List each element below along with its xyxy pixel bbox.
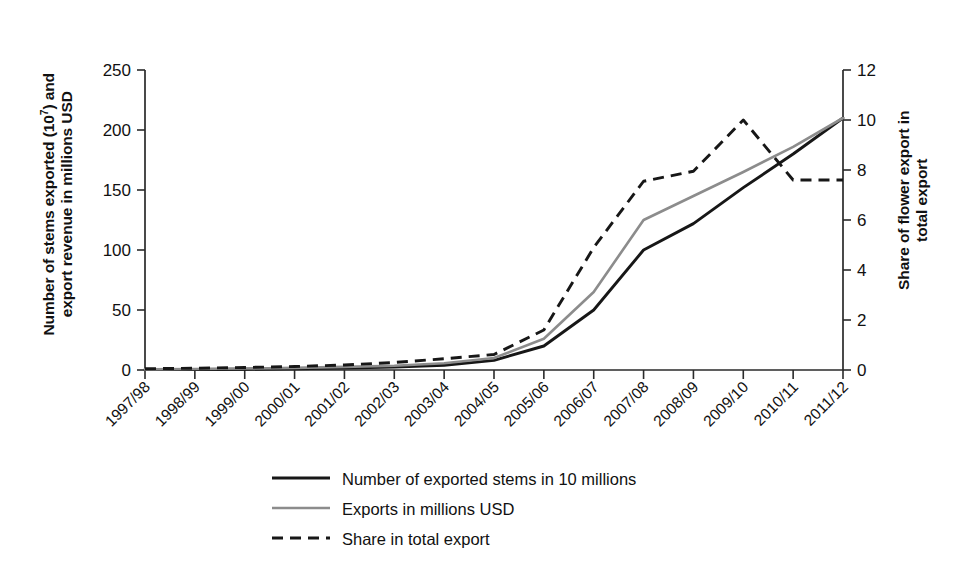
x-axis-tick-label: 2010/11 xyxy=(750,378,801,429)
y-axis-left-ticks: 050100150200250 xyxy=(103,61,145,380)
y-axis-left-tick-label: 50 xyxy=(112,301,131,320)
y-axis-left-tick-label: 100 xyxy=(103,241,131,260)
data-series-group xyxy=(145,118,843,370)
x-axis-tick-label: 2003/04 xyxy=(401,378,453,430)
data-series-line xyxy=(145,118,843,369)
axis-lines xyxy=(145,70,843,370)
y-axis-right-tick-label: 0 xyxy=(857,361,866,380)
y-axis-left-tick-label: 200 xyxy=(103,121,131,140)
y-axis-right-tick-label: 2 xyxy=(857,311,866,330)
axis-frame xyxy=(145,70,843,370)
y-axis-right-tick-label: 8 xyxy=(857,161,866,180)
y-axis-right-tick-label: 12 xyxy=(857,61,876,80)
x-axis-tick-label: 2006/07 xyxy=(550,378,602,430)
y-axis-right-tick-label: 6 xyxy=(857,211,866,230)
legend-label: Number of exported stems in 10 millions xyxy=(342,470,636,488)
chart-figure: Number of stems exported (107) and expor… xyxy=(0,0,965,566)
chart-plot-area: 050100150200250 024681012 1997/981998/99… xyxy=(0,0,965,566)
y-axis-left-tick-label: 250 xyxy=(103,61,131,80)
y-axis-right-tick-label: 10 xyxy=(857,111,876,130)
legend-label: Exports in millions USD xyxy=(342,500,514,518)
chart-legend: Number of exported stems in 10 millionsE… xyxy=(272,470,636,548)
y-axis-right-ticks: 024681012 xyxy=(843,61,876,380)
y-axis-left-tick-label: 150 xyxy=(103,181,131,200)
x-axis-tick-label: 2001/02 xyxy=(301,378,353,430)
x-axis-tick-label: 2005/06 xyxy=(500,378,552,430)
x-axis-tick-label: 2007/08 xyxy=(600,378,652,430)
legend-label: Share in total export xyxy=(342,530,490,548)
x-axis-tick-label: 2011/12 xyxy=(800,378,851,429)
x-axis-tick-label: 2000/01 xyxy=(251,378,303,430)
x-axis-tick-label: 2008/09 xyxy=(650,378,702,430)
data-series-line xyxy=(145,118,843,370)
x-axis-ticks: 1997/981998/991999/002000/012001/022002/… xyxy=(101,370,851,430)
y-axis-right-tick-label: 4 xyxy=(857,261,866,280)
x-axis-tick-label: 1999/00 xyxy=(201,378,253,430)
x-axis-tick-label: 1998/99 xyxy=(151,378,203,430)
data-series-line xyxy=(145,120,843,369)
x-axis-tick-label: 2004/05 xyxy=(450,378,502,430)
x-axis-tick-label: 2009/10 xyxy=(700,378,752,430)
y-axis-left-tick-label: 0 xyxy=(122,361,131,380)
x-axis-tick-label: 1997/98 xyxy=(101,378,153,430)
x-axis-tick-label: 2002/03 xyxy=(351,378,403,430)
